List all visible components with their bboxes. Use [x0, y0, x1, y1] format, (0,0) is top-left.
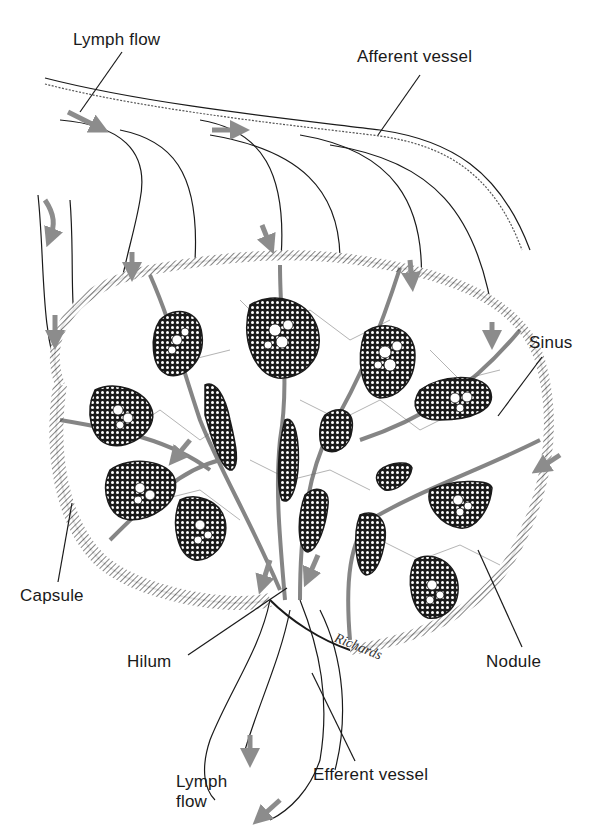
label-lymph-flow-bottom-line2: flow	[176, 792, 227, 812]
arrow-icon	[68, 112, 100, 128]
label-capsule: Capsule	[20, 586, 84, 606]
label-hilum: Hilum	[127, 652, 171, 672]
leader-afferent-vessel	[378, 75, 420, 135]
arrow-icon	[260, 800, 280, 818]
lymph-node-diagram	[0, 0, 600, 837]
label-efferent-vessel: Efferent vessel	[313, 765, 428, 785]
arrow-icon	[410, 260, 412, 282]
label-afferent-vessel: Afferent vessel	[357, 47, 472, 67]
label-lymph-flow-bottom: Lymph flow	[176, 772, 227, 811]
arrow-icon	[45, 200, 53, 238]
label-lymph-flow-top: Lymph flow	[73, 30, 160, 50]
label-sinus: Sinus	[529, 333, 573, 353]
arrow-icon	[262, 225, 270, 245]
leader-lymph-flow-top	[80, 52, 122, 112]
label-lymph-flow-bottom-line1: Lymph	[176, 772, 227, 792]
label-nodule: Nodule	[486, 652, 541, 672]
leader-efferent-vessel	[312, 673, 355, 761]
